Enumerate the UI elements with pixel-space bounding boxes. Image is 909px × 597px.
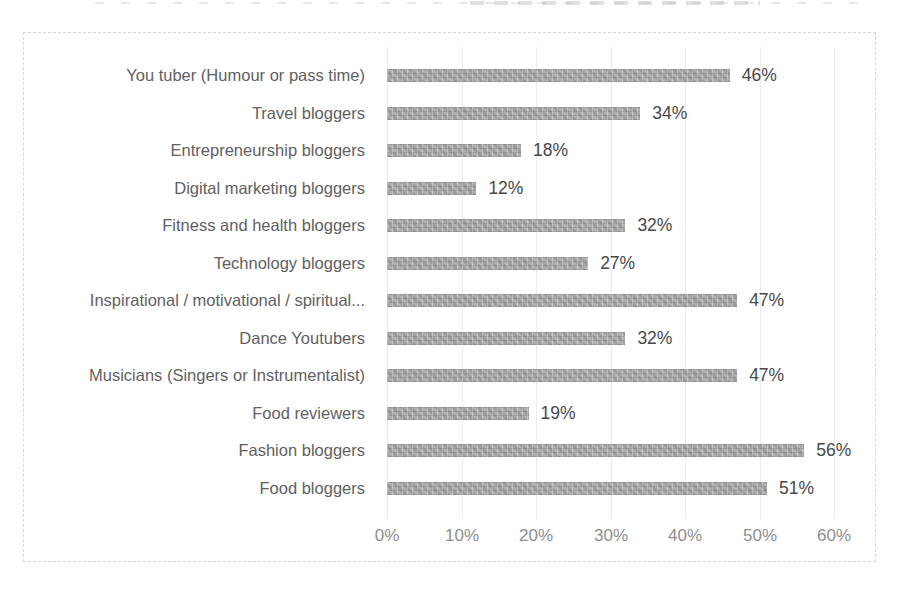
- bar-row: Musicians (Singers or Instrumentalist) 4…: [24, 357, 875, 395]
- bar: [387, 144, 521, 157]
- bar: [387, 182, 476, 195]
- x-axis: 0% 10% 20% 30% 40% 50% 60%: [24, 526, 875, 550]
- bar: [387, 482, 767, 495]
- x-tick-label: 40%: [668, 526, 702, 546]
- category-label: Fitness and health bloggers: [24, 216, 376, 235]
- value-label: 47%: [749, 290, 784, 311]
- x-tick-label: 10%: [445, 526, 479, 546]
- x-tick-label: 20%: [519, 526, 553, 546]
- page: { "chart_data": { "type": "bar", "orient…: [0, 0, 909, 597]
- category-label: Travel bloggers: [24, 104, 376, 123]
- value-label: 56%: [816, 440, 851, 461]
- bar-rows: You tuber (Humour or pass time) 46% Trav…: [24, 57, 875, 507]
- bar: [387, 219, 625, 232]
- value-label: 12%: [488, 178, 523, 199]
- scan-artifact: [95, 2, 875, 4]
- value-label: 32%: [637, 328, 672, 349]
- chart-frame: You tuber (Humour or pass time) 46% Trav…: [23, 32, 876, 562]
- category-label: Inspirational / motivational / spiritual…: [24, 291, 376, 310]
- value-label: 51%: [779, 478, 814, 499]
- bar: [387, 332, 625, 345]
- bar-row: Food reviewers 19%: [24, 395, 875, 433]
- x-tick-label: 60%: [817, 526, 851, 546]
- value-label: 27%: [600, 253, 635, 274]
- category-label: Technology bloggers: [24, 254, 376, 273]
- bar: [387, 444, 804, 457]
- x-tick-label: 0%: [375, 526, 400, 546]
- value-label: 46%: [742, 65, 777, 86]
- category-label: Musicians (Singers or Instrumentalist): [24, 366, 376, 385]
- bar: [387, 294, 737, 307]
- bar-row: Entrepreneurship bloggers 18%: [24, 132, 875, 170]
- category-label: You tuber (Humour or pass time): [24, 66, 376, 85]
- bar-row: Food bloggers 51%: [24, 470, 875, 508]
- bar: [387, 69, 730, 82]
- bar: [387, 369, 737, 382]
- bar-row: Technology bloggers 27%: [24, 245, 875, 283]
- bar-row: Fitness and health bloggers 32%: [24, 207, 875, 245]
- scan-artifact: [470, 1, 760, 5]
- category-label: Dance Youtubers: [24, 329, 376, 348]
- bar-row: You tuber (Humour or pass time) 46%: [24, 57, 875, 95]
- value-label: 32%: [637, 215, 672, 236]
- bar: [387, 257, 588, 270]
- category-label: Food bloggers: [24, 479, 376, 498]
- bar: [387, 407, 529, 420]
- value-label: 18%: [533, 140, 568, 161]
- value-label: 34%: [652, 103, 687, 124]
- category-label: Food reviewers: [24, 404, 376, 423]
- bar: [387, 107, 640, 120]
- x-tick-label: 30%: [594, 526, 628, 546]
- bar-row: Dance Youtubers 32%: [24, 320, 875, 358]
- value-label: 19%: [541, 403, 576, 424]
- x-tick-label: 50%: [743, 526, 777, 546]
- bar-row: Inspirational / motivational / spiritual…: [24, 282, 875, 320]
- category-label: Digital marketing bloggers: [24, 179, 376, 198]
- bar-row: Fashion bloggers 56%: [24, 432, 875, 470]
- category-label: Entrepreneurship bloggers: [24, 141, 376, 160]
- bar-row: Digital marketing bloggers 12%: [24, 170, 875, 208]
- value-label: 47%: [749, 365, 784, 386]
- category-label: Fashion bloggers: [24, 441, 376, 460]
- bar-row: Travel bloggers 34%: [24, 95, 875, 133]
